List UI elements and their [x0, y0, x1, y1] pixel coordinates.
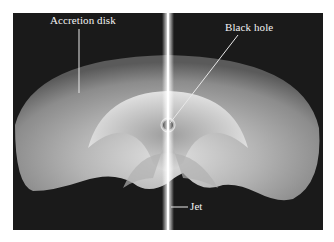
accretion-disk-label: Accretion disk — [50, 14, 116, 26]
illustration-graphic — [13, 13, 323, 230]
black-hole-label: Black hole — [225, 21, 273, 33]
jet-label: Jet — [190, 200, 203, 212]
black-hole-illustration: Accretion disk Black hole Jet — [13, 13, 323, 230]
